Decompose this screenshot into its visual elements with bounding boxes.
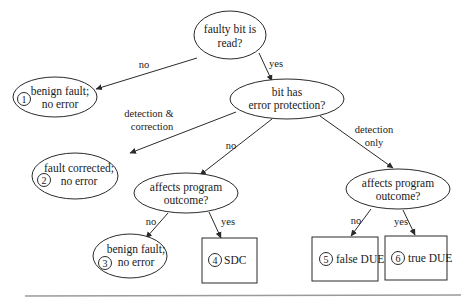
outcome-number-6: 6 (396, 253, 401, 264)
edge-label-detection-only-1: detection (355, 124, 394, 135)
edge-label-right-no: no (351, 215, 362, 226)
node-benign-fault-3: 3 benign fault; no error (93, 234, 167, 278)
edge-label-read-no: no (139, 59, 150, 70)
outcome-number-4: 4 (213, 255, 218, 266)
node-affects-right-line2: outcome? (376, 190, 421, 202)
node-affects-left-line2: outcome? (164, 194, 209, 206)
node-faulty-bit-read-line2: read? (218, 37, 243, 49)
node-sdc-4: 4 SDC (202, 238, 257, 283)
outcome-number-2: 2 (42, 175, 47, 186)
node-benign-3-line1: benign fault; (107, 243, 165, 256)
node-error-protection-line2: error protection? (249, 99, 326, 112)
edge-label-left-no: no (146, 216, 157, 227)
node-error-protection: bit has error protection? (230, 79, 344, 119)
node-false-due-5-label: false DUE (336, 253, 384, 265)
node-affects-left-line1: affects program (150, 181, 222, 194)
outcome-number-1: 1 (22, 94, 27, 105)
node-sdc-4-label: SDC (224, 254, 247, 266)
node-affects-right-line1: affects program (362, 177, 434, 190)
edge-label-detection-only-2: only (365, 137, 384, 148)
node-corrected-2-line1: fault corrected; (44, 162, 114, 174)
edge-label-read-yes: yes (269, 58, 283, 69)
edge-label-right-yes: yes (394, 216, 408, 227)
node-affects-outcome-right: affects program outcome? (346, 169, 450, 209)
edge-label-left-yes: yes (221, 216, 235, 227)
node-error-protection-line1: bit has (272, 86, 303, 98)
edge-left-yes (209, 212, 221, 238)
decision-tree-diagram: no yes detection & correction no detecti… (0, 0, 461, 297)
edge-label-protection-no: no (226, 140, 237, 151)
node-false-due-5: 5 false DUE (312, 237, 384, 281)
node-benign-fault-1: 1 benign fault; no error (13, 77, 97, 117)
node-benign-1-line2: no error (42, 98, 79, 110)
node-benign-3-line2: no error (118, 256, 155, 268)
node-affects-outcome-left: affects program outcome? (134, 173, 238, 213)
node-faulty-bit-read: faulty bit is read? (194, 11, 266, 59)
edge-label-detection-correction-2: correction (131, 121, 174, 132)
node-fault-corrected-2: 2 fault corrected; no error (32, 153, 118, 199)
edge-label-detection-correction-1: detection & (124, 108, 173, 119)
outcome-number-5: 5 (324, 254, 329, 265)
outcome-number-3: 3 (103, 258, 108, 269)
node-true-due-6-label: true DUE (408, 252, 452, 264)
node-faulty-bit-read-line1: faulty bit is (204, 23, 257, 36)
node-benign-1-line1: benign fault; (31, 85, 89, 98)
bottom-divider (25, 295, 461, 296)
node-true-due-6: 6 true DUE (385, 236, 452, 280)
node-corrected-2-line2: no error (61, 175, 98, 187)
